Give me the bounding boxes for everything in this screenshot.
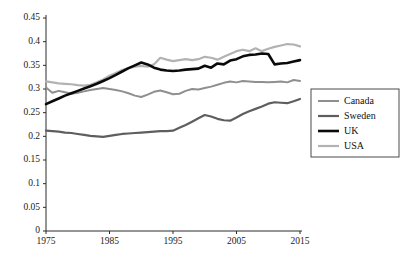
y-tick-label: 0	[35, 225, 40, 235]
legend-label-canada: Canada	[344, 95, 375, 106]
legend-label-usa: USA	[344, 140, 365, 151]
y-tick-label: 0.25	[23, 107, 40, 117]
x-tick-label: 2015	[291, 236, 310, 246]
x-tick-label: 1975	[37, 236, 56, 246]
y-tick-label: 0.2	[28, 131, 40, 141]
x-tick-label: 1985	[100, 236, 119, 246]
chart-svg: 00.050.10.150.20.250.30.350.40.45 197519…	[0, 0, 404, 262]
y-tick-label: 0.1	[28, 178, 40, 188]
y-tick-label: 0.05	[23, 202, 40, 212]
data-series-group	[46, 44, 300, 137]
y-tick-label: 0.4	[28, 36, 40, 46]
series-line-sweden	[46, 99, 300, 137]
y-tick-label: 0.3	[28, 83, 40, 93]
series-line-usa	[46, 44, 300, 86]
line-chart: 00.050.10.150.20.250.30.350.40.45 197519…	[0, 0, 404, 262]
y-tick-label: 0.35	[23, 60, 40, 70]
x-axis-ticks: 19751985199520052015	[37, 231, 310, 246]
x-tick-label: 2005	[227, 236, 246, 246]
chart-legend: CanadaSwedenUKUSA	[311, 89, 399, 157]
x-tick-label: 1995	[164, 236, 183, 246]
y-tick-label: 0.15	[23, 154, 40, 164]
y-axis-ticks: 00.050.10.150.20.250.30.350.40.45	[23, 12, 46, 235]
legend-label-sweden: Sweden	[344, 110, 376, 121]
legend-label-uk: UK	[344, 125, 359, 136]
y-tick-label: 0.45	[23, 12, 40, 22]
